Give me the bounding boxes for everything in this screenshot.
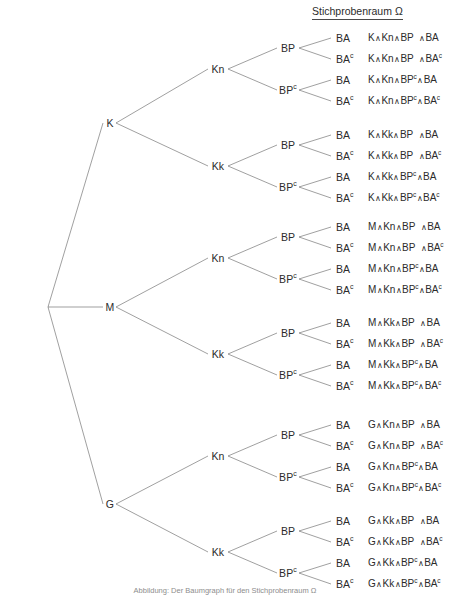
sample-space-outcome: G∧Kn∧BP∧BAc	[368, 441, 443, 451]
tree-leaf-ba-12[interactable]: BA	[336, 318, 350, 329]
edge-l3-1-to-leaf-3	[299, 90, 331, 101]
tree-node-level1-g[interactable]: G	[106, 499, 114, 510]
sample-space-outcome: G∧Kk∧BP∧BAc	[368, 537, 442, 547]
sample-space-outcome: M∧Kk∧BPc∧BA	[368, 360, 438, 370]
edge-l3-2-to-leaf-5	[299, 145, 331, 156]
sample-space-outcome: K∧Kn∧BP∧BA	[368, 33, 439, 43]
tree-leaf-bac-7[interactable]: BAc	[336, 193, 354, 204]
sample-space-outcome: M∧Kn∧BP∧BAc	[368, 243, 443, 253]
edge-l2-3-to-l3-7	[228, 354, 277, 375]
edge-l1-1-to-l2-3	[116, 307, 208, 354]
tree-leaf-ba-0[interactable]: BA	[336, 33, 350, 44]
tree-leaf-bac-17[interactable]: BAc	[336, 441, 354, 452]
sample-space-outcome: M∧Kk∧BP∧BA	[368, 318, 440, 328]
tree-node-level3-bpc-7[interactable]: BPc	[279, 370, 297, 381]
tree-node-level3-bpc-1[interactable]: BPc	[279, 85, 297, 96]
tree-leaf-ba-4[interactable]: BA	[336, 130, 350, 141]
sample-space-outcome: G∧Kn∧BPc∧BA	[368, 462, 438, 472]
sample-space-outcome: M∧Kn∧BPc∧BA	[368, 264, 438, 274]
edge-l2-1-to-l3-2	[228, 145, 277, 166]
tree-node-level2-kn-0[interactable]: Kn	[211, 64, 224, 75]
tree-node-level2-kn-2[interactable]: Kn	[211, 253, 224, 264]
tree-leaf-ba-8[interactable]: BA	[336, 222, 350, 233]
edge-l2-2-to-l3-4	[228, 237, 277, 258]
tree-leaf-bac-15[interactable]: BAc	[336, 381, 354, 392]
tree-node-level3-bp-4[interactable]: BP	[281, 232, 295, 243]
sample-space-outcome: K∧Kk∧BP∧BA	[368, 130, 438, 140]
tree-leaf-bac-3[interactable]: BAc	[336, 96, 354, 107]
sample-space-outcome: K∧Kk∧BP∧BAc	[368, 151, 441, 161]
edge-l1-0-to-l2-1	[116, 123, 208, 166]
tree-leaf-ba-10[interactable]: BA	[336, 264, 350, 275]
tree-node-level3-bpc-11[interactable]: BPc	[279, 568, 297, 579]
edge-l2-0-to-l3-1	[228, 69, 277, 90]
tree-node-level3-bpc-9[interactable]: BPc	[279, 472, 297, 483]
edge-l1-2-to-l2-5	[116, 504, 208, 552]
tree-leaf-ba-18[interactable]: BA	[336, 462, 350, 473]
tree-node-level2-kn-4[interactable]: Kn	[211, 451, 224, 462]
tree-leaf-bac-9[interactable]: BAc	[336, 243, 354, 254]
tree-leaf-bac-19[interactable]: BAc	[336, 483, 354, 494]
sample-space-outcome: M∧Kn∧BP∧BA	[368, 222, 440, 232]
tree-leaf-bac-21[interactable]: BAc	[336, 537, 354, 548]
edge-l3-6-to-leaf-13	[299, 333, 331, 344]
edge-l2-2-to-l3-5	[228, 258, 277, 279]
edge-l3-1-to-leaf-2	[299, 80, 331, 90]
edge-root-to-k-0	[48, 123, 103, 307]
sample-space-outcome: K∧Kk∧BPc∧BA	[368, 172, 436, 182]
sample-space-outcome: K∧Kn∧BPc∧BAc	[368, 96, 440, 106]
edge-l2-3-to-l3-6	[228, 333, 277, 354]
edge-l3-3-to-leaf-6	[299, 177, 331, 187]
edge-l3-7-to-leaf-14	[299, 365, 331, 375]
edge-l3-4-to-leaf-8	[299, 227, 331, 237]
tree-leaf-ba-6[interactable]: BA	[336, 172, 350, 183]
tree-node-level2-kk-1[interactable]: Kk	[212, 161, 224, 172]
sample-space-outcome: G∧Kk∧BP∧BA	[368, 516, 439, 526]
edge-l2-5-to-l3-11	[228, 552, 277, 573]
tree-leaf-bac-5[interactable]: BAc	[336, 151, 354, 162]
edge-l3-8-to-leaf-16	[299, 425, 331, 435]
sample-space-header: Stichprobenraum Ω	[312, 6, 403, 20]
edge-l3-11-to-leaf-23	[299, 573, 331, 584]
sample-space-outcome: K∧Kn∧BP∧BAc	[368, 54, 442, 64]
edge-l3-10-to-leaf-20	[299, 521, 331, 531]
tree-leaf-ba-22[interactable]: BA	[336, 558, 350, 569]
edge-l3-2-to-leaf-4	[299, 135, 331, 145]
tree-node-level3-bpc-5[interactable]: BPc	[279, 274, 297, 285]
tree-leaf-bac-1[interactable]: BAc	[336, 54, 354, 65]
edge-l3-5-to-leaf-10	[299, 269, 331, 279]
tree-node-level3-bp-6[interactable]: BP	[281, 328, 295, 339]
tree-leaf-ba-16[interactable]: BA	[336, 420, 350, 431]
edge-l3-4-to-leaf-9	[299, 237, 331, 248]
edge-l3-0-to-leaf-1	[299, 48, 331, 59]
sample-space-outcome: M∧Kk∧BPc∧BAc	[368, 381, 441, 391]
edge-l3-9-to-leaf-18	[299, 467, 331, 477]
edge-l2-0-to-l3-0	[228, 48, 277, 69]
tree-leaf-ba-2[interactable]: BA	[336, 75, 350, 86]
edge-l3-6-to-leaf-12	[299, 323, 331, 333]
tree-node-level1-k[interactable]: K	[106, 118, 113, 129]
tree-node-level3-bp-2[interactable]: BP	[281, 140, 295, 151]
tree-leaf-ba-20[interactable]: BA	[336, 516, 350, 527]
sample-space-outcome: K∧Kk∧BPc∧BAc	[368, 193, 439, 203]
tree-node-level3-bp-0[interactable]: BP	[281, 43, 295, 54]
sample-space-outcome: G∧Kk∧BPc∧BA	[368, 558, 437, 568]
tree-node-level3-bp-8[interactable]: BP	[281, 430, 295, 441]
tree-node-level2-kk-5[interactable]: Kk	[212, 547, 224, 558]
tree-leaf-ba-14[interactable]: BA	[336, 360, 350, 371]
edge-l3-9-to-leaf-19	[299, 477, 331, 488]
tree-node-level1-m[interactable]: M	[106, 302, 115, 313]
tree-leaf-bac-11[interactable]: BAc	[336, 285, 354, 296]
edge-l1-0-to-l2-0	[116, 69, 208, 123]
tree-node-level2-kk-3[interactable]: Kk	[212, 349, 224, 360]
sample-space-outcome: M∧Kk∧BP∧BAc	[368, 339, 443, 349]
edge-l3-10-to-leaf-21	[299, 531, 331, 542]
edge-l3-3-to-leaf-7	[299, 187, 331, 198]
edge-l3-0-to-leaf-0	[299, 38, 331, 48]
tree-edges-layer	[0, 0, 450, 598]
sample-space-outcome: M∧Kn∧BPc∧BAc	[368, 285, 442, 295]
tree-node-level3-bp-10[interactable]: BP	[281, 526, 295, 537]
tree-leaf-bac-13[interactable]: BAc	[336, 339, 354, 350]
tree-node-level3-bpc-3[interactable]: BPc	[279, 182, 297, 193]
edge-l3-5-to-leaf-11	[299, 279, 331, 290]
